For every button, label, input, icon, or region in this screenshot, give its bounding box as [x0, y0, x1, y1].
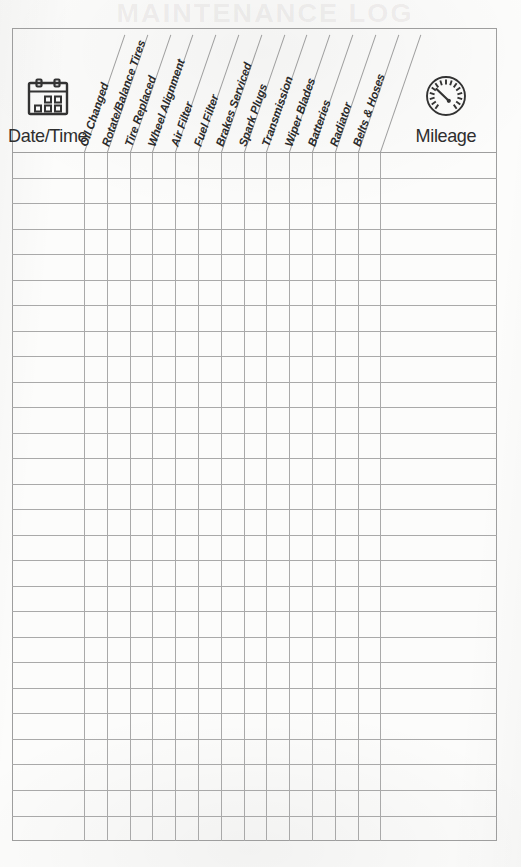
column-divider — [130, 152, 131, 841]
column-divider — [152, 152, 153, 841]
header-cell-date-time: Date/Time — [12, 28, 84, 152]
column-divider — [244, 152, 245, 841]
maintenance-log-page: MAINTENANCE LOG Oil ChangedRotate/Balanc… — [0, 0, 521, 867]
header-label-service-column: Belts & Hoses — [351, 72, 387, 148]
header-cell-mileage: Mileage — [395, 28, 497, 152]
column-divider — [266, 152, 267, 841]
column-divider — [335, 152, 336, 841]
column-divider — [312, 152, 313, 841]
header-bottom-rule — [12, 152, 497, 153]
header-label-date-time: Date/Time — [8, 125, 87, 147]
column-divider — [289, 152, 290, 841]
header-label-mileage: Mileage — [416, 125, 477, 147]
column-divider — [175, 152, 176, 841]
speedometer-icon — [422, 74, 470, 122]
table-body-grid — [12, 152, 497, 841]
column-divider — [380, 152, 381, 841]
header-label-service-column: Air Filter — [168, 100, 194, 148]
column-divider — [221, 152, 222, 841]
calendar-icon — [26, 78, 70, 122]
header-label-service-column: Radiator — [328, 101, 354, 148]
column-divider — [107, 152, 108, 841]
column-divider — [84, 152, 85, 841]
column-divider — [358, 152, 359, 841]
column-divider — [198, 152, 199, 841]
